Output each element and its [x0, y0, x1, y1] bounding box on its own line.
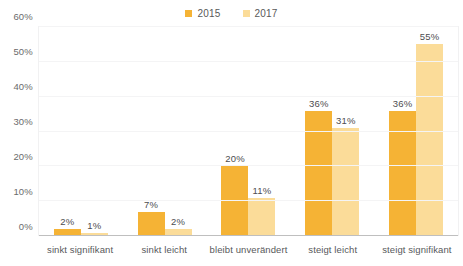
bar-value-label: 2% [60, 216, 74, 227]
legend-label-2015: 2015 [197, 8, 220, 19]
bar-group: 36%55% [374, 27, 458, 236]
bar-value-label: 36% [393, 98, 413, 109]
x-axis-spacer [0, 236, 38, 266]
gridline [39, 200, 458, 201]
legend-item-2017[interactable]: 2017 [243, 8, 278, 19]
bar-value-label: 36% [309, 98, 329, 109]
bar-groups: 2%1%7%2%20%11%36%31%36%55% [39, 27, 458, 236]
x-axis-line [39, 235, 458, 236]
bar-2015-1[interactable]: 7% [138, 212, 165, 236]
x-axis-category-label: sinkt signifikant [38, 236, 122, 266]
x-axis-category-label: steigt signifikant [375, 236, 459, 266]
gridline [39, 96, 458, 97]
gridline [39, 61, 458, 62]
bar-group: 36%31% [290, 27, 374, 236]
x-axis: sinkt signifikantsinkt leichtbleibt unve… [0, 236, 463, 266]
bar-group: 7%2% [123, 27, 207, 236]
gridline [39, 165, 458, 166]
y-axis-tick-label: 60% [13, 10, 33, 21]
x-axis-labels: sinkt signifikantsinkt leichtbleibt unve… [38, 236, 459, 266]
bar-value-label: 11% [253, 185, 272, 196]
legend-item-2015[interactable]: 2015 [185, 8, 220, 19]
y-axis-tick-label: 40% [13, 80, 33, 91]
bar-2017-4[interactable]: 55% [416, 44, 443, 236]
bar-chart: 2015 2017 60%50%40%30%20%10%0% 2%1%7%2%2… [0, 0, 463, 266]
legend-swatch-2015 [185, 10, 192, 17]
gridline [39, 26, 458, 27]
bar-2015-4[interactable]: 36% [389, 111, 416, 236]
gridline [39, 131, 458, 132]
bar-2015-2[interactable]: 20% [221, 166, 248, 236]
bar-value-label: 1% [87, 220, 101, 231]
bar-group: 20%11% [207, 27, 291, 236]
x-axis-category-label: bleibt unverändert [206, 236, 290, 266]
y-axis-tick-label: 50% [13, 45, 33, 56]
plot-area: 2%1%7%2%20%11%36%31%36%55% [38, 26, 459, 236]
bar-2017-3[interactable]: 31% [332, 128, 359, 236]
y-axis-tick-label: 10% [13, 185, 33, 196]
bar-value-label: 2% [171, 216, 185, 227]
bar-value-label: 31% [336, 115, 356, 126]
bar-value-label: 20% [225, 153, 245, 164]
legend-label-2017: 2017 [255, 8, 278, 19]
y-axis: 60%50%40%30%20%10%0% [0, 26, 38, 236]
plot-area-wrapper: 60%50%40%30%20%10%0% 2%1%7%2%20%11%36%31… [0, 26, 463, 236]
bar-2017-2[interactable]: 11% [248, 198, 275, 236]
bar-group: 2%1% [39, 27, 123, 236]
x-axis-category-label: sinkt leicht [122, 236, 206, 266]
y-axis-tick-label: 30% [13, 115, 33, 126]
y-axis-tick-label: 20% [13, 150, 33, 161]
bar-value-label: 55% [420, 31, 440, 42]
x-axis-category-label: steigt leicht [291, 236, 375, 266]
legend-swatch-2017 [243, 10, 250, 17]
chart-legend: 2015 2017 [0, 0, 463, 26]
bar-2015-3[interactable]: 36% [305, 111, 332, 236]
y-axis-tick-label: 0% [19, 220, 33, 231]
